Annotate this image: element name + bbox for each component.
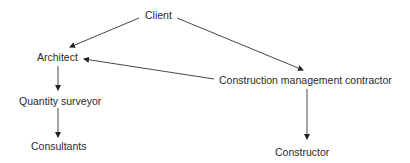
edge-cmc-architect — [84, 59, 214, 79]
node-architect: Architect — [37, 51, 78, 63]
node-construction-management-contractor: Construction management contractor — [219, 74, 392, 86]
node-constructor: Constructor — [275, 146, 329, 158]
edge-client-architect — [70, 18, 139, 47]
node-consultants: Consultants — [31, 140, 86, 152]
node-client: Client — [145, 9, 172, 21]
edge-client-cmc — [177, 18, 303, 70]
node-quantity-surveyor: Quantity surveyor — [19, 95, 101, 107]
